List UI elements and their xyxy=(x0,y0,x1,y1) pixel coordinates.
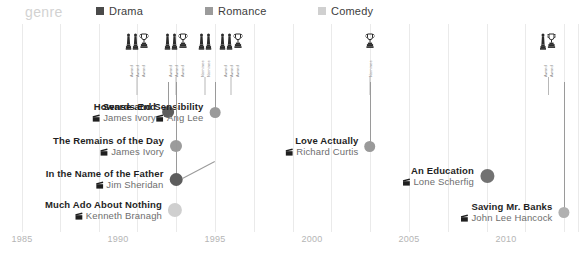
oscar-statuette-icon xyxy=(227,33,233,50)
film-director-line: Richard Curtis xyxy=(285,146,358,157)
award-label: Award xyxy=(229,51,234,77)
award-label-row: AwardAwardAward xyxy=(129,51,146,77)
film-entry[interactable]: In the Name of the FatherJim Sheridan xyxy=(46,168,183,190)
award-label: Nominee xyxy=(206,51,211,77)
award-stem xyxy=(231,77,232,95)
film-dot[interactable] xyxy=(480,169,494,183)
award-stem xyxy=(137,77,138,95)
award-label: Award xyxy=(168,51,173,77)
film-title: Sense and Sensibility xyxy=(103,101,204,112)
award-label: Award xyxy=(549,51,554,77)
film-title: Saving Mr. Banks xyxy=(460,201,552,212)
film-connector-diagonal xyxy=(182,161,215,179)
award-group[interactable]: AwardAward xyxy=(540,28,556,95)
oscar-statuette-icon xyxy=(165,33,171,50)
film-text-block: An EducationLone Scherfig xyxy=(402,165,480,187)
clapperboard-icon xyxy=(95,181,103,189)
gridline xyxy=(578,24,579,232)
oscar-statuette-icon xyxy=(199,33,205,50)
x-axis: 198519901995200020052010 xyxy=(0,232,583,257)
award-icon-row xyxy=(366,28,375,50)
legend-entry-drama[interactable]: Drama xyxy=(96,5,143,17)
award-label-row: Nominee xyxy=(368,51,373,77)
film-entry[interactable]: Saving Mr. BanksJohn Lee Hancock xyxy=(460,201,569,223)
film-entry[interactable]: Sense and SensibilityAng Lee xyxy=(103,101,221,123)
film-dot[interactable] xyxy=(170,173,183,186)
film-dot[interactable] xyxy=(210,107,221,118)
film-title: In the Name of the Father xyxy=(46,168,164,179)
film-director: James Ivory xyxy=(111,146,164,157)
film-entry[interactable]: The Remains of the DayJames Ivory xyxy=(53,135,182,157)
award-icon-row xyxy=(540,28,556,50)
trophy-cup-icon xyxy=(366,33,375,50)
film-text-block: Much Ado About NothingKenneth Branagh xyxy=(45,199,168,221)
award-label: Nominee xyxy=(368,51,373,77)
axis-tick-label: 2000 xyxy=(301,234,322,244)
gridline xyxy=(293,24,294,232)
film-director-line: Kenneth Branagh xyxy=(45,210,162,221)
trophy-cup-icon xyxy=(140,33,149,50)
legend-swatch-icon xyxy=(318,7,326,15)
award-group[interactable]: AwardAwardAward xyxy=(220,28,243,95)
award-label: Award xyxy=(543,51,548,77)
axis-tick-label: 1995 xyxy=(204,234,225,244)
award-icon-row xyxy=(126,28,149,50)
legend-swatch-icon xyxy=(96,7,104,15)
gridline xyxy=(254,24,255,232)
axis-tick-label: 2010 xyxy=(495,234,516,244)
legend-entry-romance[interactable]: Romance xyxy=(205,5,266,17)
film-dot[interactable] xyxy=(365,141,376,152)
film-text-block: Saving Mr. BanksJohn Lee Hancock xyxy=(460,201,558,223)
award-label-row: AwardAwardAward xyxy=(168,51,185,77)
film-entry[interactable]: An EducationLone Scherfig xyxy=(402,165,494,187)
award-label-row: AwardAwardAward xyxy=(223,51,240,77)
oscar-statuette-icon xyxy=(172,33,178,50)
legend-label: Drama xyxy=(109,5,143,17)
gridline xyxy=(409,24,410,232)
film-director: Kenneth Branagh xyxy=(86,210,162,221)
oscar-statuette-icon xyxy=(206,33,212,50)
legend-swatch-icon xyxy=(205,7,213,15)
award-stem xyxy=(205,77,206,95)
film-director: Jim Sheridan xyxy=(106,179,163,190)
film-text-block: Sense and SensibilityAng Lee xyxy=(103,101,210,123)
film-connector-line xyxy=(176,82,177,179)
film-director-line: Jim Sheridan xyxy=(46,179,164,190)
film-text-block: In the Name of the FatherJim Sheridan xyxy=(46,168,170,190)
award-label: Award xyxy=(174,51,179,77)
film-title: The Remains of the Day xyxy=(53,135,164,146)
film-director: Ang Lee xyxy=(167,112,203,123)
film-director-line: Ang Lee xyxy=(103,112,204,123)
clapperboard-icon xyxy=(75,212,83,220)
oscar-statuette-icon xyxy=(220,33,226,50)
film-entry[interactable]: Much Ado About NothingKenneth Branagh xyxy=(45,199,182,221)
film-director: Richard Curtis xyxy=(296,146,358,157)
film-title: Much Ado About Nothing xyxy=(45,199,162,210)
award-group[interactable]: NomineeNominee xyxy=(199,28,212,95)
film-title: Love Actually xyxy=(285,135,358,146)
oscar-statuette-icon xyxy=(126,33,132,50)
legend-label: Comedy xyxy=(331,5,373,17)
film-dot[interactable] xyxy=(168,203,182,217)
film-dot[interactable] xyxy=(559,207,570,218)
award-icon-row xyxy=(220,28,243,50)
gridline xyxy=(331,24,332,232)
award-stem xyxy=(548,77,549,95)
legend-title: genre xyxy=(25,4,63,20)
clapperboard-icon xyxy=(285,148,293,156)
award-label: Nominee xyxy=(200,51,205,77)
film-director: John Lee Hancock xyxy=(471,212,552,223)
axis-tick-label: 1985 xyxy=(11,234,32,244)
clapperboard-icon xyxy=(156,114,164,122)
gridline xyxy=(215,24,216,232)
trophy-cup-icon xyxy=(234,33,243,50)
film-entry[interactable]: Love ActuallyRichard Curtis xyxy=(285,135,375,157)
film-director: Lone Scherfig xyxy=(413,176,474,187)
oscar-statuette-icon xyxy=(540,33,546,50)
gridline xyxy=(22,24,23,232)
award-icon-row xyxy=(199,28,212,50)
award-group[interactable]: AwardAwardAward xyxy=(126,28,149,95)
award-label: Award xyxy=(223,51,228,77)
award-label-row: AwardAward xyxy=(543,51,554,77)
legend-entry-comedy[interactable]: Comedy xyxy=(318,5,373,17)
